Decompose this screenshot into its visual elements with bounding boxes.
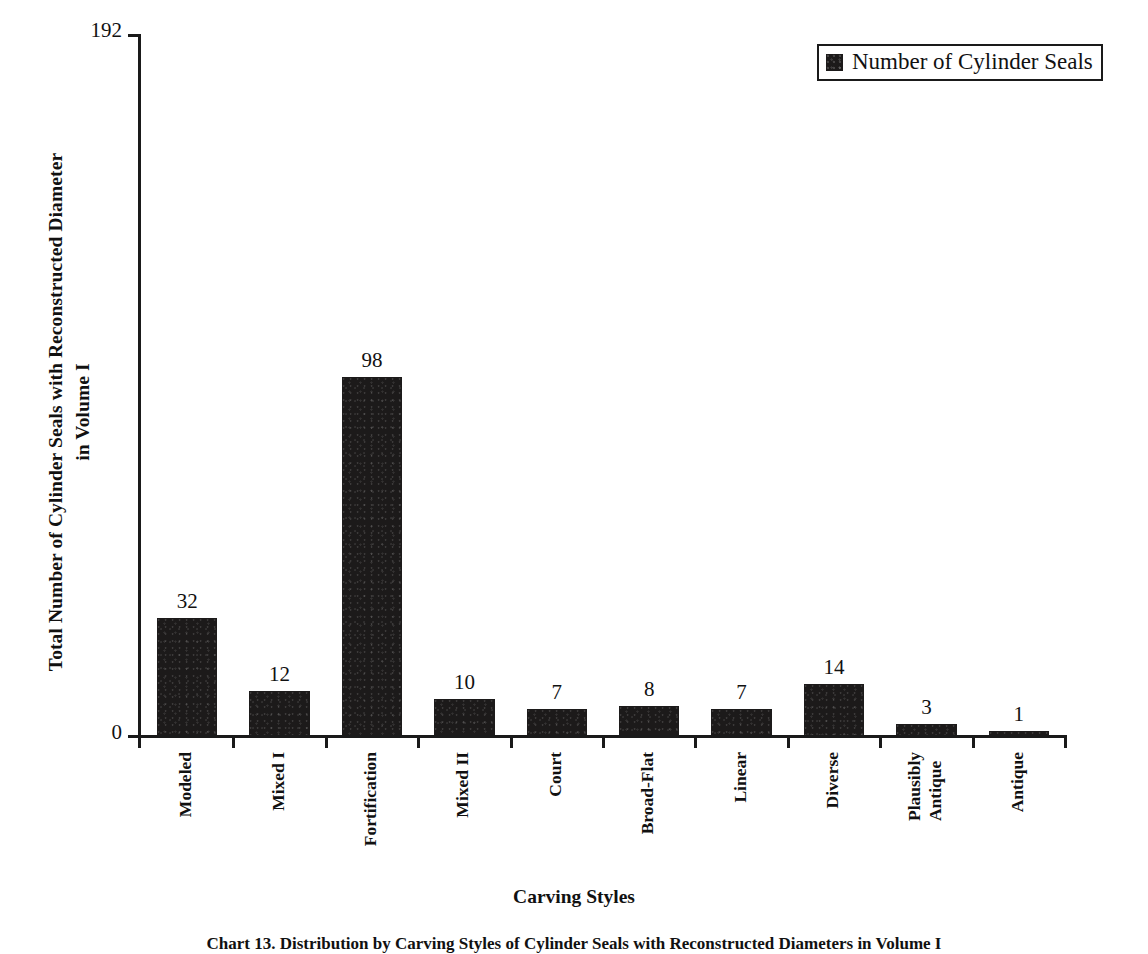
bar-group: 10 [434, 34, 495, 735]
x-axis-tick [972, 735, 975, 748]
bar-group: 32 [157, 34, 218, 735]
x-axis-tick [232, 735, 235, 748]
y-axis-tick-label-max: 192 [48, 20, 122, 41]
bar-group: 1 [989, 34, 1050, 735]
x-axis-tick [787, 735, 790, 748]
bar [342, 377, 403, 735]
bar [434, 699, 495, 736]
bar-group: 98 [342, 34, 403, 735]
x-axis-tick [879, 735, 882, 748]
bar-value-label: 32 [131, 591, 244, 612]
y-axis-tick-max [128, 34, 139, 37]
x-axis-category-label-line: Linear [730, 752, 751, 803]
figure-caption: Chart 13. Distribution by Carving Styles… [0, 934, 1148, 954]
x-axis-category-label: Mixed II [452, 752, 476, 818]
x-axis-tick [1064, 735, 1067, 748]
x-axis-category-label-line: Diverse [822, 752, 843, 808]
y-axis-title-line-2: in Volume I [69, 363, 96, 461]
x-axis-tick [417, 735, 420, 748]
x-axis-category-label: Fortification [360, 752, 384, 846]
bar-group: 14 [804, 34, 865, 735]
x-axis-tick [325, 735, 328, 748]
x-axis-category-label: Linear [730, 752, 754, 803]
y-axis-title: Total Number of Cylinder Seals with Reco… [41, 62, 97, 762]
x-axis-category-label: Broad-Flat [637, 752, 661, 834]
x-axis-category-label: Modeled [175, 752, 199, 817]
x-axis-title: Carving Styles [0, 886, 1148, 908]
x-axis-category-label-line: Mixed I [268, 752, 289, 811]
bar [896, 724, 957, 735]
x-axis-category-label: Mixed I [268, 752, 292, 811]
x-axis-category-label-line: Plausibly [904, 752, 925, 821]
bar-value-label: 7 [685, 682, 798, 703]
bar-value-label: 98 [316, 350, 429, 371]
y-axis-tick-label-zero: 0 [48, 722, 122, 743]
bar [619, 706, 680, 735]
x-axis-category-label-line: Antique [925, 752, 946, 821]
y-axis-title-line-1: Total Number of Cylinder Seals with Reco… [42, 153, 69, 671]
bar-group: 12 [249, 34, 310, 735]
bar [711, 709, 772, 735]
bar-group: 7 [527, 34, 588, 735]
x-axis-category-label: PlausiblyAntique [904, 752, 948, 821]
bar [527, 709, 588, 735]
bar [804, 684, 865, 735]
x-axis-category-label-line: Modeled [175, 752, 196, 817]
bar [989, 731, 1050, 735]
x-axis-category-label-line: Broad-Flat [637, 752, 658, 834]
x-axis-category-label-line: Mixed II [452, 752, 473, 818]
bar-value-label: 14 [778, 657, 891, 678]
legend-item-label: Number of Cylinder Seals [852, 50, 1093, 74]
bar-group: 7 [711, 34, 772, 735]
x-axis-tick [510, 735, 513, 748]
bar-value-label: 12 [223, 664, 336, 685]
x-axis-category-label-line: Fortification [360, 752, 381, 846]
x-axis-category-label: Court [545, 752, 569, 797]
x-axis-category-label-line: Antique [1007, 752, 1028, 812]
x-axis-tick [138, 735, 141, 748]
bar-group: 8 [619, 34, 680, 735]
chart-legend: Number of Cylinder Seals [817, 44, 1103, 81]
bar-value-label: 1 [963, 704, 1076, 725]
x-axis-tick [694, 735, 697, 748]
x-axis-tick [602, 735, 605, 748]
bar-group: 3 [896, 34, 957, 735]
filled-square-icon [826, 54, 843, 71]
x-axis-category-label: Diverse [822, 752, 846, 808]
x-axis-category-label-line: Court [545, 752, 566, 797]
bar [157, 618, 218, 735]
bar [249, 691, 310, 735]
x-axis-category-label: Antique [1007, 752, 1031, 812]
plot-area: 321298107871431 [141, 34, 1065, 735]
